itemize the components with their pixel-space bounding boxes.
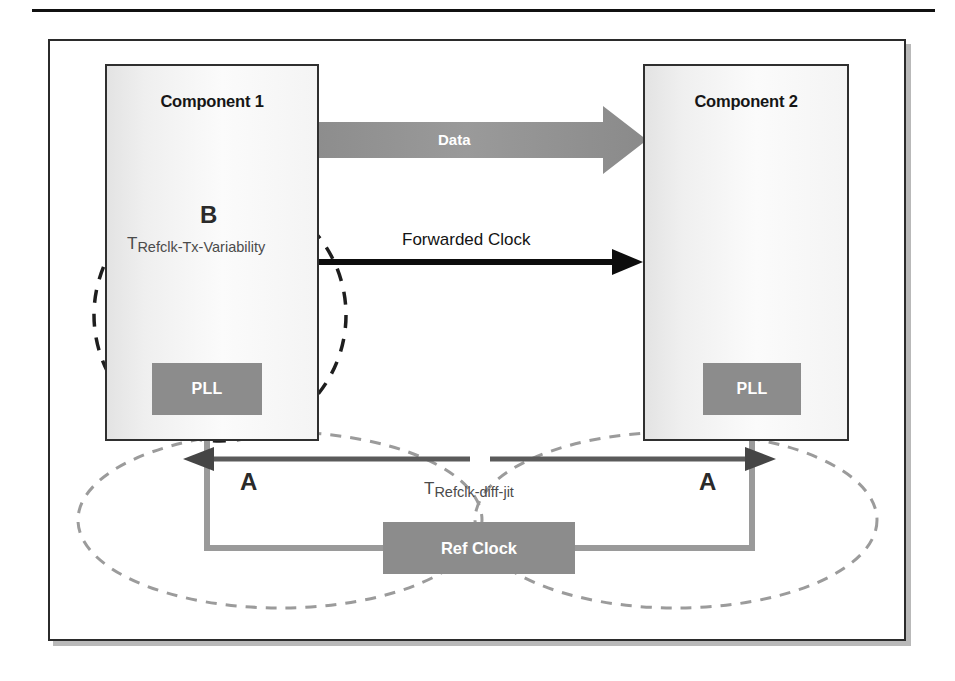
region-a-right-label: A bbox=[699, 468, 716, 496]
pll-block-component-1: PLL bbox=[152, 363, 262, 415]
a-measure-arrow-right bbox=[490, 447, 776, 471]
data-arrow-label: Data bbox=[438, 131, 471, 148]
region-a-left-label: A bbox=[240, 468, 257, 496]
component-2-title: Component 2 bbox=[645, 92, 847, 111]
t-refclk-tx-variability-label: TRefclk-Tx-Variability bbox=[127, 234, 265, 254]
figure-page: Component 1 Component 2 PLL PLL Ref Cloc… bbox=[0, 0, 955, 681]
t-refclk-tx-variability-base: T bbox=[127, 234, 137, 253]
t-refclk-diff-jit-subscript: Refclk-diff-jit bbox=[434, 484, 514, 500]
region-b-label: B bbox=[200, 201, 217, 229]
ref-clock-block: Ref Clock bbox=[383, 522, 575, 574]
t-refclk-tx-variability-subscript: Refclk-Tx-Variability bbox=[137, 239, 265, 255]
t-refclk-diff-jit-label: TRefclk-diff-jit bbox=[424, 479, 514, 499]
pll-block-component-2: PLL bbox=[703, 363, 801, 415]
forwarded-clock-label: Forwarded Clock bbox=[402, 230, 531, 250]
forwarded-clock-arrow bbox=[318, 249, 643, 275]
component-1-title: Component 1 bbox=[107, 92, 317, 111]
a-measure-arrow-left bbox=[183, 447, 470, 471]
t-refclk-diff-jit-base: T bbox=[424, 479, 434, 498]
data-block-arrow bbox=[318, 106, 647, 174]
